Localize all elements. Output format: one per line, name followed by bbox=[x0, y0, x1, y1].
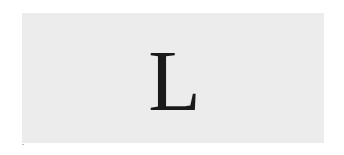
scan-speck bbox=[22, 144, 24, 145]
letter-card: L bbox=[22, 13, 324, 143]
letter-glyph: L bbox=[148, 38, 201, 124]
